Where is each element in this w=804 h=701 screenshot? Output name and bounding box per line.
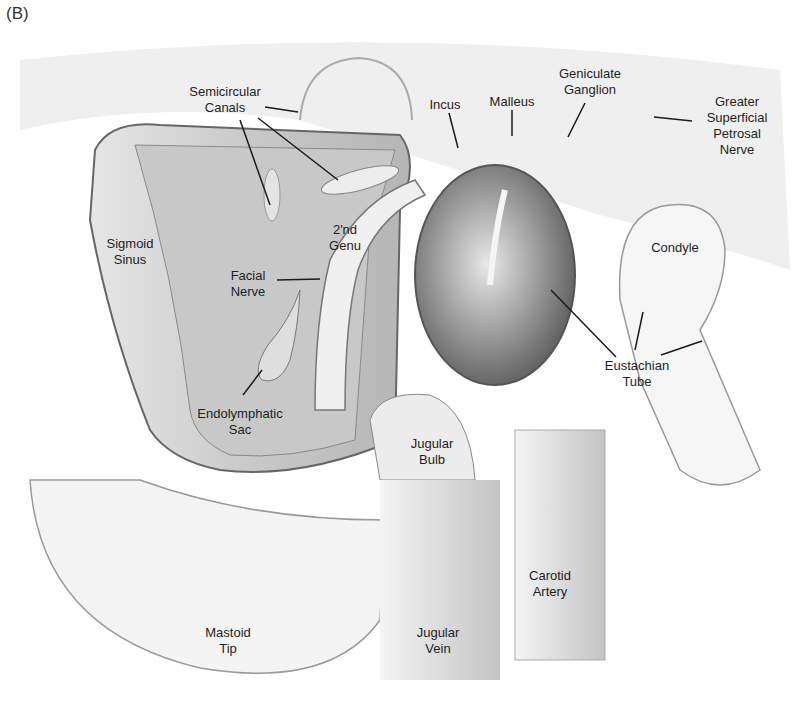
panel-label: (B)	[6, 4, 29, 24]
label-carotid-artery: Carotid Artery	[529, 568, 571, 600]
carotid-artery-shape	[515, 430, 605, 660]
label-semicircular-canals: Semicircular Canals	[189, 84, 261, 116]
anatomical-illustration: (B) Semicircular Canals Incus Malleus Ge…	[0, 0, 804, 701]
label-incus: Incus	[429, 97, 460, 113]
label-endolymphatic-sac: Endolymphatic Sac	[197, 406, 282, 438]
label-jugular-vein: Jugular Vein	[417, 625, 460, 657]
label-geniculate-ganglion: Geniculate Ganglion	[559, 66, 621, 98]
label-sigmoid-sinus: Sigmoid Sinus	[107, 236, 154, 268]
label-condyle: Condyle	[651, 240, 699, 256]
label-eustachian-tube: Eustachian Tube	[605, 358, 669, 390]
label-greater-superficial-petrosal-nerve: Greater Superficial Petrosal Nerve	[707, 94, 768, 158]
illustration-drawing	[0, 0, 804, 701]
label-second-genu: 2'nd Genu	[329, 222, 361, 254]
label-facial-nerve: Facial Nerve	[231, 268, 266, 300]
label-malleus: Malleus	[490, 94, 535, 110]
middle-ear-cavity	[415, 165, 575, 385]
label-mastoid-tip: Mastoid Tip	[205, 625, 251, 657]
label-jugular-bulb: Jugular Bulb	[411, 436, 454, 468]
